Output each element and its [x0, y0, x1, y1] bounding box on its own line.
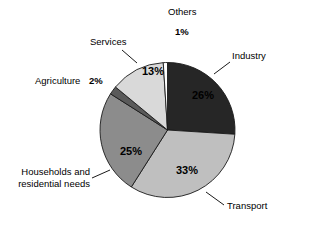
slice-label-others: Others — [168, 6, 197, 18]
slice-label-industry: Industry — [232, 50, 266, 62]
leader-line-transport — [206, 192, 224, 205]
slice-value-households: 25% — [120, 145, 142, 157]
pie-chart-figure: Others 1% Industry 26% Transport 33% Hou… — [0, 0, 312, 234]
slice-value-services: 13% — [142, 65, 164, 77]
leader-line-households — [92, 170, 110, 178]
slice-label-households: Households and residential needs — [8, 166, 90, 189]
leader-line-industry — [214, 62, 230, 74]
slice-label-agriculture: Agriculture — [35, 75, 80, 87]
slice-value-others: 1% — [175, 26, 189, 37]
pie-slices — [100, 62, 235, 197]
leader-line-services — [122, 50, 137, 63]
slice-label-transport: Transport — [227, 200, 267, 212]
slice-value-transport: 33% — [176, 164, 198, 176]
slice-value-industry: 26% — [192, 89, 214, 101]
slice-label-households-line2: residential needs — [18, 178, 90, 189]
slice-value-agriculture: 2% — [89, 75, 103, 86]
pie-chart-graphic — [0, 0, 312, 234]
slice-label-services: Services — [90, 36, 126, 48]
slice-label-households-line1: Households and — [21, 166, 90, 177]
